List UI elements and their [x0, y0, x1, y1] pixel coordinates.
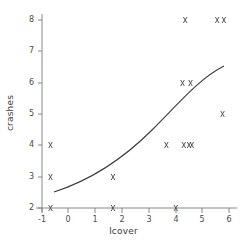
y-tick-label-7: 7 [20, 47, 34, 55]
data-point [189, 80, 193, 86]
x-tick-label-1: 1 [85, 216, 105, 224]
y-tick-label-6: 6 [20, 79, 34, 87]
data-point [111, 174, 115, 180]
data-point [49, 142, 53, 148]
data-point [183, 17, 187, 23]
y-tick-marks [38, 20, 42, 208]
data-point [182, 142, 186, 148]
scatter-plot-figure: 8 7 6 5 4 3 2 -1 0 1 2 3 4 5 6 lcover cr… [0, 0, 247, 241]
x-tick-label-4: 4 [166, 216, 186, 224]
x-tick-label-3: 3 [139, 216, 159, 224]
data-point [215, 17, 219, 23]
data-point [165, 142, 169, 148]
x-tick-label-minus1: -1 [32, 216, 52, 224]
y-tick-label-4: 4 [20, 141, 34, 149]
data-point [49, 174, 53, 180]
y-tick-label-3: 3 [20, 173, 34, 181]
fitted-trend-curve [54, 66, 224, 192]
x-tick-label-6: 6 [219, 216, 239, 224]
x-tick-marks [42, 208, 229, 213]
data-point [190, 142, 194, 148]
x-axis-title: lcover [0, 226, 247, 236]
data-point [222, 17, 226, 23]
x-tick-label-5: 5 [192, 216, 212, 224]
data-point [221, 111, 225, 117]
y-tick-label-8: 8 [20, 16, 34, 24]
scatter-marker-group [49, 17, 226, 211]
y-tick-label-5: 5 [20, 110, 34, 118]
x-tick-label-2: 2 [112, 216, 132, 224]
plot-canvas [0, 0, 247, 241]
data-point [181, 80, 185, 86]
x-tick-label-0: 0 [58, 216, 78, 224]
y-axis-title: crashes [5, 81, 15, 145]
y-tick-label-2: 2 [20, 204, 34, 212]
